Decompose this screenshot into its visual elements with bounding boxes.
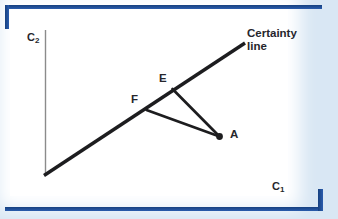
certainty-line	[44, 43, 245, 176]
page-background: C2 C1 Certainty line E F A	[0, 0, 338, 219]
point-a-label: A	[230, 128, 238, 140]
segment-f-to-a	[147, 110, 220, 137]
point-a-marker	[216, 133, 223, 140]
x-axis-label-base: C	[272, 180, 280, 192]
certainty-line-label-line2: line	[247, 40, 297, 53]
x-axis-label-sub: 1	[280, 185, 284, 194]
y-axis-label: C2	[27, 31, 39, 47]
x-axis-label: C1	[272, 180, 284, 196]
y-axis-label-base: C	[27, 31, 35, 43]
certainty-line-label-line1: Certainty	[247, 27, 297, 40]
point-f-label: F	[131, 93, 138, 105]
y-axis-label-sub: 2	[35, 36, 39, 45]
certainty-line-label: Certainty line	[247, 27, 297, 53]
point-e-label: E	[159, 72, 167, 84]
